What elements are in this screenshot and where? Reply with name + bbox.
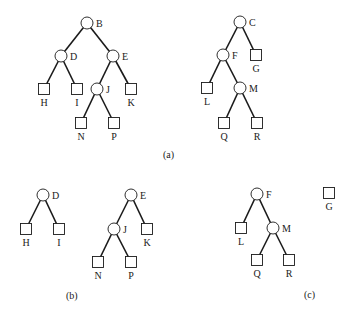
square-icon — [202, 83, 213, 94]
node-label: E — [140, 190, 146, 201]
internal-node-F: F — [251, 188, 272, 200]
circle-icon — [234, 82, 246, 94]
node-label: F — [232, 50, 238, 61]
internal-node-F: F — [217, 49, 238, 61]
square-icon — [126, 84, 137, 95]
leaf-node-L: L — [202, 83, 213, 107]
node-label: Q — [253, 268, 261, 279]
square-icon — [39, 84, 50, 95]
leaf-node-Q: Q — [219, 118, 230, 142]
node-label: N — [77, 131, 84, 142]
internal-node-M: M — [267, 222, 291, 234]
leaf-node-R: R — [284, 255, 295, 279]
internal-node-B: B — [81, 17, 103, 29]
leaf-node-I: I — [54, 224, 65, 248]
leaf-node-K: K — [126, 84, 137, 108]
node-label: E — [122, 51, 128, 62]
node-label: D — [70, 51, 77, 62]
leaf-node-G: G — [324, 188, 335, 212]
square-icon — [236, 223, 247, 234]
leaf-node-R: R — [252, 118, 263, 142]
leaf-node-Q: Q — [252, 255, 263, 279]
node-label: H — [22, 237, 29, 248]
node-label: K — [143, 237, 151, 248]
node-label: I — [57, 237, 60, 248]
node-label: P — [128, 270, 134, 281]
node-label: K — [127, 97, 135, 108]
square-icon — [251, 50, 262, 61]
square-icon — [126, 257, 137, 268]
node-label: J — [106, 84, 110, 95]
nodes-layer: BDEHIJKNPCFGLMQRDHIEJKNPFLMQRG — [21, 16, 335, 281]
circle-icon — [107, 50, 119, 62]
square-icon — [324, 188, 335, 199]
internal-node-J: J — [91, 83, 110, 95]
square-icon — [252, 118, 263, 129]
node-label: R — [254, 131, 261, 142]
node-label: Q — [220, 131, 228, 142]
internal-node-M: M — [234, 82, 258, 94]
circle-icon — [108, 223, 120, 235]
node-label: I — [75, 97, 78, 108]
leaf-node-H: H — [39, 84, 50, 108]
leaf-node-G: G — [251, 50, 262, 74]
circle-icon — [125, 189, 137, 201]
internal-node-E: E — [125, 189, 146, 201]
leaf-node-L: L — [236, 223, 247, 247]
square-icon — [219, 118, 230, 129]
leaf-node-P: P — [109, 118, 120, 142]
node-label: P — [111, 131, 117, 142]
circle-icon — [234, 16, 246, 28]
node-label: F — [266, 189, 272, 200]
square-icon — [54, 224, 65, 235]
leaf-node-I: I — [72, 84, 83, 108]
internal-node-D: D — [37, 189, 59, 201]
binary-tree-figure: BDEHIJKNPCFGLMQRDHIEJKNPFLMQRG (a) (b) (… — [0, 0, 353, 311]
node-label: J — [123, 224, 127, 235]
circle-icon — [91, 83, 103, 95]
square-icon — [252, 255, 263, 266]
leaf-node-K: K — [142, 224, 153, 248]
leaf-node-H: H — [21, 224, 32, 248]
square-icon — [21, 224, 32, 235]
square-icon — [142, 224, 153, 235]
square-icon — [284, 255, 295, 266]
leaf-node-N: N — [76, 118, 87, 142]
node-label: L — [238, 236, 244, 247]
node-label: R — [286, 268, 293, 279]
internal-node-D: D — [55, 50, 77, 62]
circle-icon — [217, 49, 229, 61]
internal-node-C: C — [234, 16, 256, 28]
node-label: M — [249, 83, 258, 94]
node-label: B — [96, 18, 103, 29]
node-label: H — [40, 97, 47, 108]
node-label: L — [204, 96, 210, 107]
circle-icon — [37, 189, 49, 201]
square-icon — [72, 84, 83, 95]
node-label: G — [325, 201, 332, 212]
node-label: C — [249, 17, 256, 28]
node-label: M — [282, 223, 291, 234]
circle-icon — [251, 188, 263, 200]
square-icon — [76, 118, 87, 129]
circle-icon — [267, 222, 279, 234]
square-icon — [109, 118, 120, 129]
node-label: D — [52, 190, 59, 201]
caption-b: (b) — [66, 290, 78, 302]
node-label: G — [252, 63, 259, 74]
square-icon — [93, 257, 104, 268]
node-label: N — [94, 270, 101, 281]
circle-icon — [55, 50, 67, 62]
leaf-node-P: P — [126, 257, 137, 281]
circle-icon — [81, 17, 93, 29]
caption-c: (c) — [304, 289, 315, 301]
caption-a: (a) — [163, 149, 174, 161]
leaf-node-N: N — [93, 257, 104, 281]
internal-node-J: J — [108, 223, 127, 235]
internal-node-E: E — [107, 50, 128, 62]
